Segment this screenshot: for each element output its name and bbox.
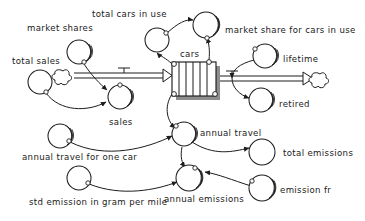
variable-sales[interactable]: [108, 83, 133, 109]
link-annual-travel-to-total-emissions: [192, 142, 249, 152]
cloud-sink-right: [309, 73, 329, 88]
variable-total-cars-in-use-port: [164, 31, 168, 35]
stock-cars-port-right: [213, 92, 218, 97]
variable-retired-label: retired: [279, 99, 310, 109]
stock-cars-port-top: [207, 60, 212, 65]
variable-retired[interactable]: [249, 88, 274, 112]
variable-annual-travel-port: [174, 124, 178, 128]
variable-emission-fr[interactable]: [249, 175, 276, 201]
variable-annual-emissions-port: [193, 166, 197, 170]
stock-cars-label: cars: [180, 49, 200, 59]
stock-flow-diagram: cars market shares total sales sales: [0, 0, 365, 221]
variable-market-shares[interactable]: [67, 40, 92, 64]
variable-annual-travel[interactable]: [172, 122, 197, 146]
variable-total-emissions-label: total emissions: [283, 148, 353, 158]
variable-annual-travel-for-one-car-port: [67, 139, 71, 143]
link-emission-fr-to-annual-emissions: [205, 172, 251, 186]
outflow-valve[interactable]: [226, 71, 238, 76]
stock-cars[interactable]: [172, 60, 220, 100]
variable-sales-port: [118, 83, 122, 87]
variable-emission-fr-label: emission fr: [280, 185, 331, 195]
variable-market-share-port: [205, 36, 209, 40]
diagram-canvas: cars market shares total sales sales: [0, 0, 365, 221]
variable-annual-emissions-label: annual emissions: [164, 194, 244, 204]
inflow-arrowhead: [163, 69, 172, 82]
link-annual-travel-to-annual-emissions: [181, 147, 185, 167]
link-lifetime-to-outflow-valve: [232, 60, 254, 78]
variable-total-sales[interactable]: [28, 70, 52, 94]
variable-std-emission-in-gram-per-mile[interactable]: [67, 166, 91, 190]
variable-total-cars-in-use[interactable]: [145, 28, 169, 52]
variable-annual-travel-for-one-car-label: annual travel for one car: [22, 152, 137, 162]
link-cars-to-market-share: [207, 38, 209, 60]
variable-market-shares-label: market shares: [27, 23, 93, 33]
link-cars-to-total-cars-in-use: [157, 53, 172, 64]
variable-lifetime[interactable]: [253, 44, 279, 68]
stock-cars-port-left: [172, 62, 177, 67]
variable-emission-fr-port: [250, 179, 254, 183]
link-cars-to-annual-travel: [167, 94, 175, 128]
variable-std-emission-in-gram-per-mile-label: std emission in gram per mile: [29, 197, 167, 207]
link-market-shares-to-sales: [84, 64, 107, 90]
variable-std-emission-port: [86, 181, 90, 185]
link-annual-travel-one-car-to-annual-travel: [70, 136, 172, 151]
variable-total-cars-in-use-label: total cars in use: [92, 9, 167, 19]
stock-cars-port-bottom: [172, 92, 177, 97]
link-total-sales-to-sales: [46, 93, 106, 109]
variable-lifetime-label: lifetime: [283, 54, 318, 64]
inflow-valve[interactable]: [118, 68, 130, 73]
variable-market-share-for-cars-in-use[interactable]: [193, 12, 220, 40]
variable-total-sales-port: [44, 90, 48, 94]
variable-lifetime-port: [253, 47, 257, 51]
link-total-cars-in-use-to-market-share: [167, 20, 193, 33]
variable-total-sales-label: total sales: [12, 56, 60, 66]
link-std-emission-to-annual-emissions: [89, 182, 177, 191]
variable-total-emissions[interactable]: [249, 139, 275, 165]
cloud-source-left: [52, 70, 72, 85]
variable-market-share-for-cars-in-use-label: market share for cars in use: [225, 25, 356, 35]
variable-market-shares-port: [82, 60, 86, 64]
variable-sales-label: sales: [109, 117, 133, 127]
variable-annual-emissions[interactable]: [176, 165, 203, 191]
variable-annual-travel-for-one-car[interactable]: [48, 124, 73, 148]
variable-annual-travel-label: annual travel: [200, 128, 261, 138]
